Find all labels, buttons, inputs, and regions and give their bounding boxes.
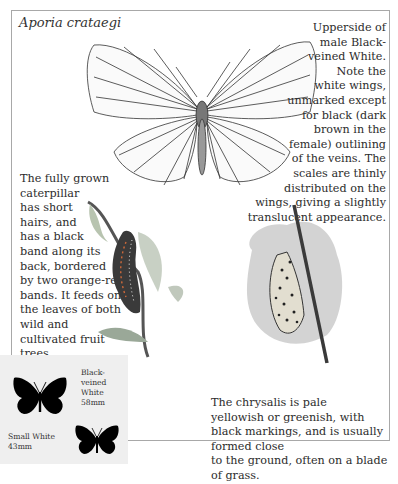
caption-line: white wings, <box>246 79 386 94</box>
chrysalis-caption: The chrysalis is pale yellowish or green… <box>211 396 391 484</box>
caption-line: unmarked except <box>246 94 386 109</box>
caption-line: distributed on the <box>246 182 386 197</box>
caption-line: The chrysalis is pale <box>211 396 391 411</box>
caption-line: brown in the <box>246 123 386 138</box>
size-comparison-inset: Black-veined White 58mm Small White 43mm <box>0 355 128 464</box>
caption-line: scales are thinly <box>246 167 386 182</box>
caption-line: of the veins. The <box>246 152 386 167</box>
caption-line: The fully grown <box>20 172 135 187</box>
small-white-silhouette-icon <box>74 422 120 456</box>
caption-line: Note the <box>246 65 386 80</box>
upperside-caption: Upperside of male Black- veined White. N… <box>246 21 386 225</box>
caption-line: for black (dark <box>246 109 386 124</box>
black-veined-label: Black-veined White 58mm <box>81 368 128 408</box>
caption-line: male Black- <box>246 36 386 51</box>
caption-line: black markings, and is usually formed cl… <box>211 425 391 454</box>
caption-line: yellowish or greenish, with <box>211 411 391 426</box>
label-line: Black-veined <box>81 368 128 388</box>
caption-line: to the ground, often on a blade of grass… <box>211 454 391 483</box>
label-line: White <box>81 388 128 398</box>
black-veined-white-silhouette-icon <box>12 374 68 416</box>
caption-line: female) outlining <box>246 138 386 153</box>
small-white-label: Small White 43mm <box>8 432 55 452</box>
caterpillar-illustration-icon <box>78 192 190 360</box>
size-value: 43mm <box>8 442 55 452</box>
chrysalis-illustration-icon <box>232 200 352 365</box>
label-line: Small White <box>8 432 55 442</box>
caption-line: veined White. <box>246 50 386 65</box>
caption-line: Upperside of <box>246 21 386 36</box>
size-value: 58mm <box>81 398 128 408</box>
